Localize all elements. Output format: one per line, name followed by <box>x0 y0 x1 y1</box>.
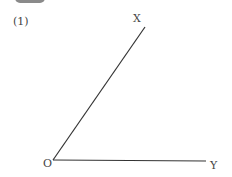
point-label-y: Y <box>210 160 217 171</box>
ray-ox <box>53 27 145 160</box>
ray-oy <box>53 160 206 161</box>
vertex-label-o: O <box>43 158 52 169</box>
point-label-x: X <box>133 13 141 24</box>
angle-diagram <box>0 0 232 177</box>
